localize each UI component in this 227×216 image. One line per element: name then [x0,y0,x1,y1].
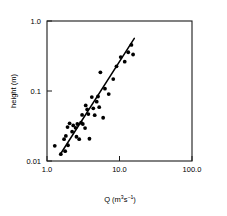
x-axis-title-tail: ) [133,195,136,204]
data-point [88,137,92,141]
data-point [68,121,72,125]
trend-line [61,38,134,153]
data-point [83,126,87,130]
data-point [123,60,127,64]
y-tick-label: 0.1 [31,87,41,96]
y-tick-label: 0.01 [26,157,41,166]
data-point [91,106,95,110]
data-point [131,53,135,57]
data-point [64,134,68,138]
data-point [66,125,70,129]
data-point [90,95,94,99]
data-point [84,104,88,108]
data-point [98,70,102,74]
data-point [97,105,101,109]
x-axis-title-base: Q (m [104,195,121,204]
data-point [53,144,57,148]
y-tick-label: 1.0 [31,17,41,26]
scatter-data-points [53,43,135,156]
x-tick-label: 10.0 [112,165,127,174]
data-point [77,137,81,141]
y-axis-title: height (m) [9,74,18,108]
data-point [93,113,97,117]
x-tick-label: 1.0 [42,165,52,174]
data-point [111,77,115,81]
x-tick-label: 100.0 [183,165,202,174]
data-point [101,116,105,120]
y-axis-ticks [47,21,52,161]
data-point [62,137,66,141]
x-axis-tick-labels: 1.010.0100.0 [42,165,202,174]
x-axis-title: Q (m3s−1) [104,194,136,204]
scatter-chart-figure: 0.010.11.0 1.010.0100.0 height (m) Q (m3… [0,0,227,216]
x-axis-ticks [47,156,192,161]
data-point [80,113,84,117]
y-axis-tick-labels: 0.010.11.0 [26,17,41,166]
data-point [107,92,111,96]
data-point [81,122,85,126]
